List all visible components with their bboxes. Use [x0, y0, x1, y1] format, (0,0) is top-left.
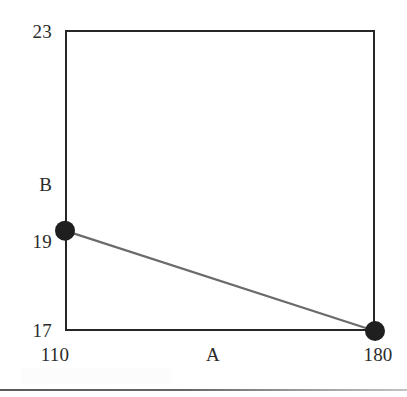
y-axis-title: B — [6, 175, 52, 194]
x-axis-tick-label-right: 180 — [345, 345, 407, 364]
scan-ghost-text-artifact — [22, 368, 172, 384]
y-axis-tick-label-top: 23 — [6, 22, 52, 41]
plot-area-frame — [65, 30, 375, 331]
y-axis-tick-label-mid: 19 — [6, 232, 52, 251]
y-axis-tick-label-bottom: 17 — [6, 321, 52, 340]
chart-figure: 23 19 17 B 110 180 A — [0, 0, 407, 397]
x-axis-tick-label-left: 110 — [22, 345, 88, 364]
page-bottom-rule — [0, 389, 407, 391]
x-axis-title: A — [180, 345, 246, 364]
